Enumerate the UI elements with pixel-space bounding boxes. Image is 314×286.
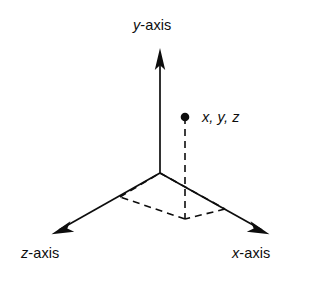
- plotted-point-label: x, y, z: [202, 110, 240, 125]
- projection-guides-group: [120, 117, 225, 219]
- projection-edge-x-foot-to-base: [185, 209, 225, 219]
- x-axis-label: x-axis: [232, 246, 270, 261]
- y-axis-label-suffix: -axis: [140, 17, 171, 33]
- z-axis-label: z-axis: [21, 246, 59, 261]
- solid-axes-group: [59, 57, 262, 230]
- z-axis-label-suffix: -axis: [28, 245, 59, 261]
- plotted-point-marker: [181, 113, 190, 122]
- coordinate-axes-figure: y-axis x-axis z-axis x, y, z: [0, 0, 314, 286]
- projection-edge-base-to-z-foot: [120, 197, 185, 219]
- y-axis-label: y-axis: [133, 18, 171, 33]
- axes-drawing: [0, 0, 314, 286]
- x-axis-label-suffix: -axis: [239, 245, 270, 261]
